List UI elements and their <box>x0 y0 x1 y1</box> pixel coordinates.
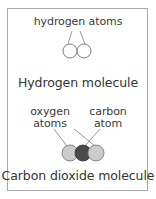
molecule-diagram: hydrogen atoms Hydrogen molecule oxygen … <box>0 0 156 199</box>
carbon-atom-callout-label: carbon atom <box>82 106 134 129</box>
hydrogen-atoms-callout-label: hydrogen atoms <box>0 16 156 28</box>
carbon-dioxide-molecule-caption: Carbon dioxide molecule <box>0 169 156 182</box>
diagram-frame <box>7 8 148 191</box>
oxygen-atoms-label-line2: atoms <box>24 118 76 130</box>
hydrogen-molecule-caption: Hydrogen molecule <box>0 76 156 89</box>
oxygen-atoms-callout-label: oxygen atoms <box>24 106 76 129</box>
carbon-atom-label-line2: atom <box>82 118 134 130</box>
oxygen-atoms-label-line1: oxygen <box>24 106 76 118</box>
carbon-atom-label-line1: carbon <box>82 106 134 118</box>
